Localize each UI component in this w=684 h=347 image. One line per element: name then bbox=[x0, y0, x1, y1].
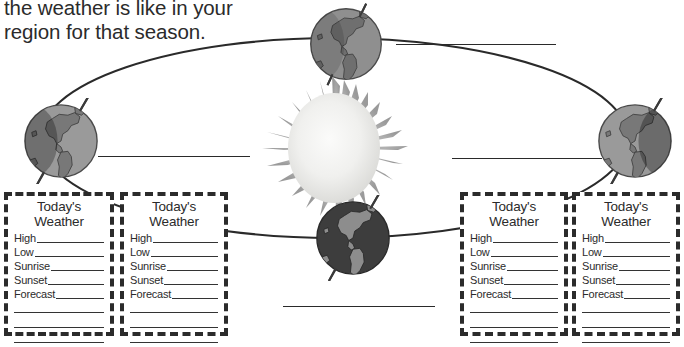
weather-field-row[interactable]: Low bbox=[130, 245, 218, 259]
weather-card-title-line-2: Weather bbox=[582, 215, 670, 230]
globe-top bbox=[304, 2, 388, 86]
weather-field-row[interactable]: Forecast bbox=[582, 287, 670, 301]
weather-card-title: Today'sWeather bbox=[14, 200, 104, 229]
weather-field-label: High bbox=[14, 232, 37, 244]
weather-blank-rule bbox=[130, 327, 218, 328]
weather-blank-rule bbox=[14, 327, 104, 328]
answer-line-top[interactable] bbox=[396, 44, 556, 45]
weather-card-title-line-1: Today's bbox=[14, 200, 104, 215]
weather-field-label: Sunset bbox=[130, 274, 164, 286]
instructions-line-1: the weather is like in your bbox=[4, 0, 262, 20]
instructions-text: believe weather forecasts and know what … bbox=[4, 0, 262, 43]
weather-card-title-line-2: Weather bbox=[470, 215, 558, 230]
weather-blank-row[interactable] bbox=[582, 331, 670, 346]
weather-field-label: Low bbox=[582, 246, 603, 258]
weather-blank-row[interactable] bbox=[14, 316, 104, 331]
weather-blank-rule bbox=[470, 342, 558, 343]
globe-right bbox=[592, 98, 678, 184]
weather-field-label: Sunset bbox=[470, 274, 504, 286]
weather-field-label: Forecast bbox=[470, 288, 512, 300]
weather-field-label: Sunrise bbox=[470, 260, 507, 272]
weather-field-row[interactable]: Sunrise bbox=[130, 259, 218, 273]
weather-card-2[interactable]: Today'sWeatherHighLowSunriseSunsetForeca… bbox=[120, 192, 228, 336]
weather-card-4[interactable]: Today'sWeatherHighLowSunriseSunsetForeca… bbox=[572, 192, 680, 336]
weather-blank-row[interactable] bbox=[470, 301, 558, 316]
weather-field-label: Low bbox=[130, 246, 151, 258]
globe-left bbox=[18, 98, 104, 184]
weather-card-title: Today'sWeather bbox=[582, 200, 670, 229]
weather-field-label: High bbox=[130, 232, 153, 244]
weather-field-row[interactable]: Forecast bbox=[14, 287, 104, 301]
weather-field-label: Forecast bbox=[582, 288, 624, 300]
answer-line-bottom[interactable] bbox=[283, 306, 435, 307]
weather-field-row[interactable]: Forecast bbox=[470, 287, 558, 301]
weather-blank-rule bbox=[130, 312, 218, 313]
weather-field-label: Sunrise bbox=[130, 260, 167, 272]
weather-blank-rule bbox=[470, 327, 558, 328]
weather-blank-row[interactable] bbox=[130, 301, 218, 316]
weather-field-label: Low bbox=[14, 246, 35, 258]
weather-field-row[interactable]: High bbox=[130, 231, 218, 245]
instructions-line-2: region for that season. bbox=[4, 20, 262, 44]
weather-card-title: Today'sWeather bbox=[470, 200, 558, 229]
weather-blank-row[interactable] bbox=[582, 316, 670, 331]
weather-field-label: Sunrise bbox=[14, 260, 51, 272]
weather-card-title: Today'sWeather bbox=[130, 200, 218, 229]
weather-field-row[interactable]: Low bbox=[14, 245, 104, 259]
weather-field-row[interactable]: Sunset bbox=[130, 273, 218, 287]
weather-card-1[interactable]: Today'sWeatherHighLowSunriseSunsetForeca… bbox=[4, 192, 114, 336]
weather-field-row[interactable]: Low bbox=[582, 245, 670, 259]
weather-card-title-line-2: Weather bbox=[130, 215, 218, 230]
weather-blank-rule bbox=[470, 312, 558, 313]
weather-field-row[interactable]: High bbox=[14, 231, 104, 245]
weather-blank-rule bbox=[582, 342, 670, 343]
weather-blank-rule bbox=[14, 342, 104, 343]
weather-blank-row[interactable] bbox=[582, 301, 670, 316]
weather-card-title-line-2: Weather bbox=[14, 215, 104, 230]
weather-field-row[interactable]: Sunrise bbox=[582, 259, 670, 273]
weather-blank-row[interactable] bbox=[470, 316, 558, 331]
weather-blank-row[interactable] bbox=[130, 316, 218, 331]
weather-field-label: Forecast bbox=[14, 288, 56, 300]
weather-field-label: High bbox=[470, 232, 493, 244]
weather-field-row[interactable]: High bbox=[470, 231, 558, 245]
weather-field-row[interactable]: Sunrise bbox=[470, 259, 558, 273]
weather-blank-row[interactable] bbox=[14, 301, 104, 316]
weather-blank-row[interactable] bbox=[130, 331, 218, 346]
weather-field-label: High bbox=[582, 232, 605, 244]
weather-blank-rule bbox=[582, 312, 670, 313]
weather-field-row[interactable]: Sunrise bbox=[14, 259, 104, 273]
weather-card-title-line-1: Today's bbox=[130, 200, 218, 215]
weather-blank-rule bbox=[14, 312, 104, 313]
weather-field-row[interactable]: Forecast bbox=[130, 287, 218, 301]
weather-field-label: Sunset bbox=[14, 274, 48, 286]
weather-field-row[interactable]: High bbox=[582, 231, 670, 245]
globe-bottom bbox=[310, 195, 396, 281]
weather-field-row[interactable]: Low bbox=[470, 245, 558, 259]
weather-field-label: Sunrise bbox=[582, 260, 619, 272]
weather-field-row[interactable]: Sunset bbox=[470, 273, 558, 287]
weather-blank-rule bbox=[582, 327, 670, 328]
weather-field-row[interactable]: Sunset bbox=[582, 273, 670, 287]
weather-card-3[interactable]: Today'sWeatherHighLowSunriseSunsetForeca… bbox=[460, 192, 568, 336]
weather-field-label: Low bbox=[470, 246, 491, 258]
worksheet-page: believe weather forecasts and know what … bbox=[0, 0, 684, 347]
weather-card-title-line-1: Today's bbox=[582, 200, 670, 215]
weather-card-title-line-1: Today's bbox=[470, 200, 558, 215]
weather-field-label: Sunset bbox=[582, 274, 616, 286]
weather-field-label: Forecast bbox=[130, 288, 172, 300]
weather-field-row[interactable]: Sunset bbox=[14, 273, 104, 287]
weather-blank-row[interactable] bbox=[470, 331, 558, 346]
weather-blank-rule bbox=[130, 342, 218, 343]
weather-blank-row[interactable] bbox=[14, 331, 104, 346]
answer-line-left[interactable] bbox=[98, 156, 250, 157]
answer-line-right[interactable] bbox=[452, 158, 602, 159]
